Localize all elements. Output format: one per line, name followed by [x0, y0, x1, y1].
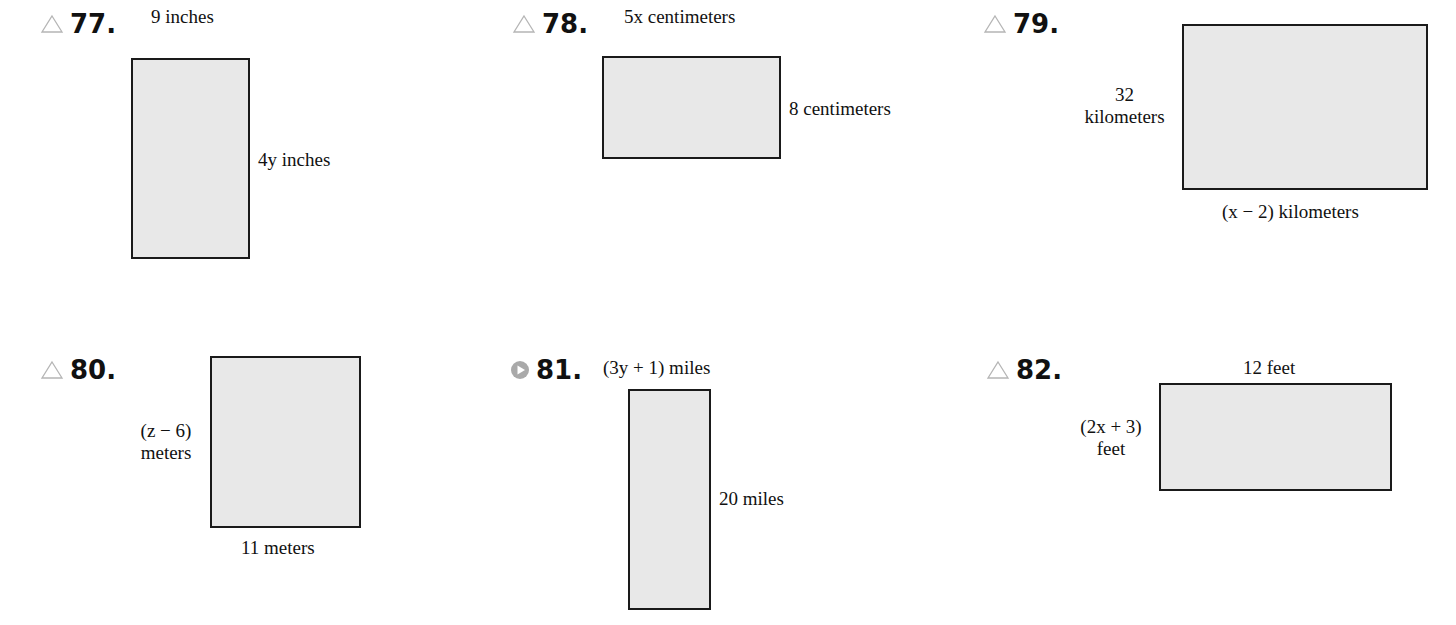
side-dimension-label: (z − 6) meters — [128, 420, 204, 464]
bottom-dimension-label: 11 meters — [241, 537, 315, 559]
side-dimension-label: 32 kilometers — [1072, 84, 1177, 128]
side-dimension-label: (2x + 3) feet — [1068, 416, 1154, 460]
top-dimension-label: (3y + 1) miles — [603, 357, 710, 379]
problem-number-79: 79. — [983, 11, 1059, 37]
top-dimension-label: 12 feet — [1243, 357, 1295, 379]
top-dimension-label: 9 inches — [151, 6, 214, 28]
triangle-icon — [40, 360, 64, 380]
problem-number-81: 81. — [510, 357, 582, 383]
rectangle-figure — [602, 56, 781, 159]
triangle-icon — [986, 360, 1010, 380]
video-play-icon — [510, 360, 530, 380]
rectangle-figure — [210, 356, 361, 528]
triangle-icon — [983, 14, 1007, 34]
problem-number-82: 82. — [986, 357, 1062, 383]
rectangle-figure — [1159, 383, 1392, 491]
rectangle-figure — [131, 58, 250, 259]
problem-number-80: 80. — [40, 357, 116, 383]
rectangle-figure — [1182, 24, 1428, 190]
triangle-icon — [40, 14, 64, 34]
side-dimension-label: 20 miles — [719, 488, 784, 510]
side-dimension-label: 4y inches — [258, 149, 330, 171]
rectangle-figure — [628, 389, 711, 610]
top-dimension-label: 5x centimeters — [624, 6, 735, 28]
bottom-dimension-label: (x − 2) kilometers — [1222, 201, 1359, 223]
side-dimension-label: 8 centimeters — [789, 98, 891, 120]
problem-number-78: 78. — [512, 11, 588, 37]
triangle-icon — [512, 14, 536, 34]
problem-number-77: 77. — [40, 11, 116, 37]
